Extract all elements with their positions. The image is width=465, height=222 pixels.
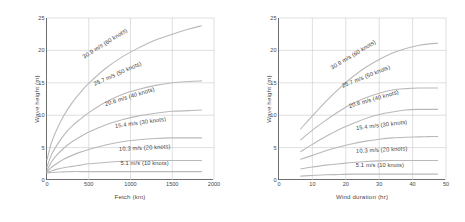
y-tick-label: 25	[38, 15, 44, 21]
x-tick-label: 0	[45, 181, 48, 187]
x-axis-title-right: Wind duration (hr)	[279, 193, 445, 200]
x-tick-label: 1500	[166, 181, 178, 187]
y-tick-label: 5	[273, 145, 276, 151]
chart-panel-duration: Wave height (m) Wind duration (hr) 05101…	[232, 0, 464, 222]
x-tick-label: 2000	[208, 181, 220, 187]
x-tick-label: 10	[309, 181, 315, 187]
x-tick-label: 0	[277, 181, 280, 187]
x-tick-label: 1000	[124, 181, 136, 187]
plot-area-fetch: Wave height (m) Fetch (km) 0510152025050…	[46, 18, 213, 180]
figure-root: Wave height (m) Fetch (km) 0510152025050…	[0, 0, 465, 222]
x-tick-label: 500	[84, 181, 93, 187]
curve-5	[301, 174, 438, 176]
x-axis-title-left: Fetch (km)	[47, 193, 213, 200]
x-tick-label: 50	[443, 181, 449, 187]
curve-0	[47, 26, 201, 160]
y-tick-label: 0	[273, 177, 276, 183]
curve-1	[301, 88, 438, 140]
y-tick-label: 10	[270, 112, 276, 118]
y-tick-label: 20	[270, 47, 276, 53]
curve-label: 5.1 m/s (10 knots)	[356, 162, 404, 168]
y-tick-label: 20	[38, 47, 44, 53]
x-tick-label: 30	[376, 181, 382, 187]
y-tick-label: 25	[270, 15, 276, 21]
y-tick-label: 10	[38, 112, 44, 118]
y-tick-label: 0	[41, 177, 44, 183]
x-tick-label: 40	[409, 181, 415, 187]
curve-5	[47, 172, 201, 173]
y-tick-label: 15	[270, 80, 276, 86]
curve-2	[301, 109, 438, 151]
plot-area-duration: Wave height (m) Wind duration (hr) 05101…	[278, 18, 445, 180]
y-tick-label: 5	[41, 145, 44, 151]
curve-0	[301, 43, 438, 129]
curve-label: 5.1 m/s (10 knots)	[120, 160, 168, 166]
x-tick-label: 20	[343, 181, 349, 187]
chart-panel-fetch: Wave height (m) Fetch (km) 0510152025050…	[0, 0, 232, 222]
y-tick-label: 15	[38, 80, 44, 86]
